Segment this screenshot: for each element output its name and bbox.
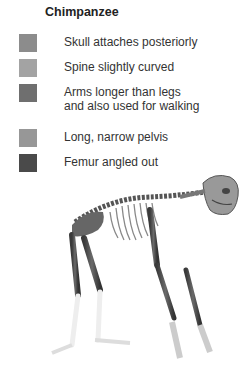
skull — [203, 175, 238, 214]
chimpanzee-skeleton-illustration — [0, 0, 250, 386]
arm-front — [185, 206, 210, 352]
hind-leg-front — [84, 238, 130, 343]
hind-leg-back — [52, 235, 78, 353]
pelvis — [72, 212, 104, 237]
arm-back — [150, 210, 180, 358]
